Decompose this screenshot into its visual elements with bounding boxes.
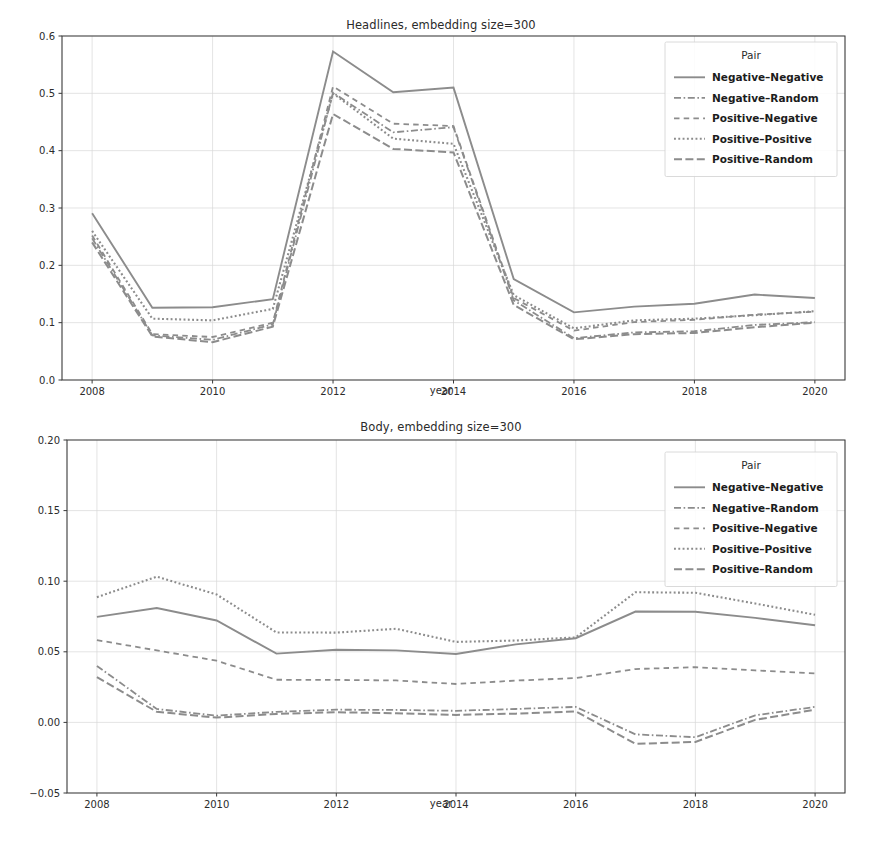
legend-label-positive-positive: Positive–Positive bbox=[712, 133, 812, 145]
xtick-label: 2008 bbox=[79, 386, 104, 397]
legend-title: Pair bbox=[741, 49, 761, 61]
legend-label-negative-random: Negative–Random bbox=[712, 92, 819, 104]
xtick-label: 2012 bbox=[320, 386, 345, 397]
figure-canvas: Headlines, embedding size=300 year 0.00.… bbox=[0, 0, 882, 844]
ytick-label: 0.2 bbox=[39, 260, 55, 271]
ytick-label: 0.05 bbox=[38, 646, 60, 657]
ytick-label: 0.1 bbox=[39, 317, 55, 328]
legend-title: Pair bbox=[741, 459, 761, 471]
xtick-label: 2008 bbox=[84, 799, 109, 810]
legend[interactable]: PairNegative–NegativeNegative–RandomPosi… bbox=[665, 42, 837, 177]
legend-label-positive-random: Positive–Random bbox=[712, 563, 813, 575]
xtick-label: 2012 bbox=[324, 799, 349, 810]
ytick-label: 0.0 bbox=[39, 375, 55, 386]
legend-label-negative-random: Negative–Random bbox=[712, 502, 819, 514]
xtick-label: 2016 bbox=[563, 799, 588, 810]
ytick-label: 0.15 bbox=[38, 505, 60, 516]
ytick-label: 0.10 bbox=[38, 576, 60, 587]
xtick-label: 2020 bbox=[802, 386, 827, 397]
ytick-label: 0.4 bbox=[39, 145, 55, 156]
xtick-label: 2018 bbox=[683, 799, 708, 810]
legend-label-negative-negative: Negative–Negative bbox=[712, 71, 823, 83]
plot-area-headlines: 0.00.10.20.30.40.50.62008201020122014201… bbox=[0, 18, 882, 408]
legend-label-positive-negative: Positive–Negative bbox=[712, 522, 818, 534]
plot-area-body: −0.050.000.050.100.150.20200820102012201… bbox=[0, 420, 882, 820]
legend-label-positive-positive: Positive–Positive bbox=[712, 543, 812, 555]
ytick-label: 0.3 bbox=[39, 203, 55, 214]
chart-panel-headlines: Headlines, embedding size=300 year 0.00.… bbox=[0, 18, 882, 408]
chart-panel-body: Body, embedding size=300 year −0.050.000… bbox=[0, 420, 882, 820]
xtick-label: 2016 bbox=[561, 386, 586, 397]
legend-label-positive-negative: Positive–Negative bbox=[712, 112, 818, 124]
legend-label-positive-random: Positive–Random bbox=[712, 153, 813, 165]
xtick-label: 2020 bbox=[802, 799, 827, 810]
xtick-label: 2014 bbox=[441, 386, 466, 397]
legend-label-negative-negative: Negative–Negative bbox=[712, 481, 823, 493]
xtick-label: 2014 bbox=[443, 799, 468, 810]
xtick-label: 2018 bbox=[682, 386, 707, 397]
ytick-label: 0.6 bbox=[39, 31, 55, 42]
ytick-label: 0.00 bbox=[38, 717, 60, 728]
xtick-label: 2010 bbox=[200, 386, 225, 397]
ytick-label: 0.5 bbox=[39, 88, 55, 99]
legend[interactable]: PairNegative–NegativeNegative–RandomPosi… bbox=[665, 452, 837, 587]
ytick-label: −0.05 bbox=[29, 788, 60, 799]
xtick-label: 2010 bbox=[204, 799, 229, 810]
ytick-label: 0.20 bbox=[38, 435, 60, 446]
